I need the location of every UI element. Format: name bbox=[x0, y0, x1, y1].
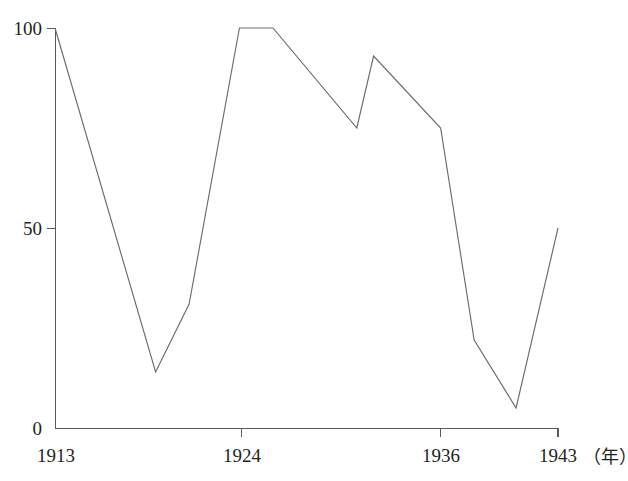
x-tick-label-1913: 1913 bbox=[25, 446, 87, 465]
x-axis-unit-label: （年） bbox=[583, 448, 628, 466]
x-tick-label-1943: 1943 bbox=[527, 446, 589, 465]
x-tick-label-1924: 1924 bbox=[211, 446, 273, 465]
x-tick-label-1936: 1936 bbox=[410, 446, 472, 465]
y-tick-label-50: 50 bbox=[0, 219, 42, 238]
chart-canvas bbox=[0, 0, 628, 481]
y-tick-label-0: 0 bbox=[0, 419, 42, 438]
y-tick-label-100: 100 bbox=[0, 19, 42, 38]
line-chart: 100 50 0 1913 1924 1936 1943 （年） bbox=[0, 0, 628, 481]
series-line-index bbox=[55, 28, 558, 408]
